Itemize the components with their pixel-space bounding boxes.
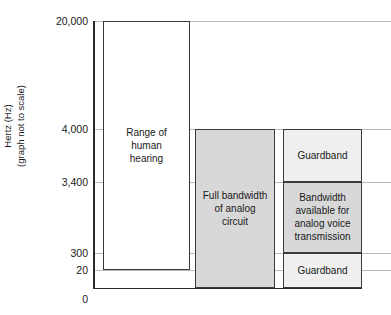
segment-label-guardband-upper: Guardband bbox=[294, 149, 350, 162]
y-axis-title-line-1: Hertz (Hz) bbox=[2, 70, 15, 182]
bar-label-analog-circuit: Full bandwidth of analog circuit bbox=[200, 189, 270, 228]
bar-label-line-1: Full bandwidth bbox=[203, 189, 267, 202]
bar-full-bandwidth-analog-circuit: Full bandwidth of analog circuit bbox=[195, 129, 275, 289]
y-tick-label-3400: 3,400 bbox=[32, 177, 88, 187]
bar-range-of-human-hearing: Range of human hearing bbox=[103, 21, 190, 270]
bar-label-human-hearing: Range of human hearing bbox=[123, 126, 170, 165]
segment-label-line-3: analog voice bbox=[294, 217, 350, 230]
segment-voice-bandwidth: Bandwidth available for analog voice tra… bbox=[283, 182, 362, 253]
segment-label-line-1: Bandwidth bbox=[294, 191, 350, 204]
y-tick-label-20: 20 bbox=[32, 265, 88, 275]
segment-label-guardband-lower: Guardband bbox=[294, 264, 350, 277]
bar-label-line-2: of analog bbox=[203, 202, 267, 215]
segment-label-line-2: available for bbox=[294, 204, 350, 217]
y-axis-title-line-2: (graph not to scale) bbox=[15, 70, 28, 182]
y-axis-line bbox=[93, 21, 95, 289]
bar-label-line-1: Range of bbox=[126, 126, 167, 139]
bar-label-line-3: circuit bbox=[203, 215, 267, 228]
segment-label-line-1: Guardband bbox=[297, 149, 347, 162]
segment-label-line-4: transmission bbox=[294, 230, 350, 243]
segment-guardband-upper: Guardband bbox=[283, 129, 362, 182]
bar-label-line-2: human bbox=[126, 139, 167, 152]
segment-guardband-lower: Guardband bbox=[283, 253, 362, 289]
segment-label-line-1: Guardband bbox=[297, 264, 347, 277]
y-tick-label-20000: 20,000 bbox=[32, 16, 88, 26]
bar-label-line-3: hearing bbox=[126, 152, 167, 165]
y-tick-label-4000: 4,000 bbox=[32, 124, 88, 134]
frequency-bandwidth-chart: Hertz (Hz) (graph not to scale) 20,000 4… bbox=[0, 0, 391, 315]
segment-label-voice-bandwidth: Bandwidth available for analog voice tra… bbox=[291, 191, 353, 243]
y-tick-label-0: 0 bbox=[32, 294, 88, 304]
y-axis-tick-labels: 20,000 4,000 3,400 300 20 0 bbox=[32, 0, 88, 315]
y-tick-label-300: 300 bbox=[32, 248, 88, 258]
